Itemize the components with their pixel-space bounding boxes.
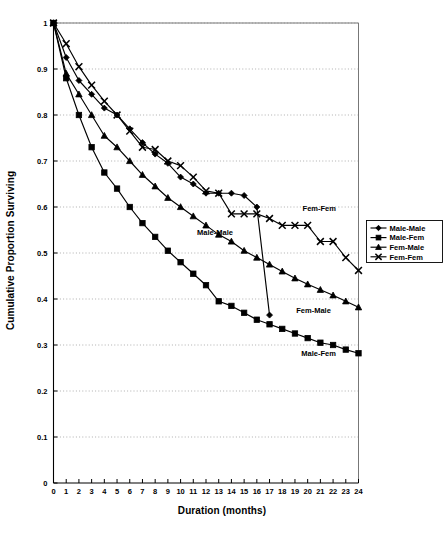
data-point-marker bbox=[63, 55, 69, 61]
data-point-marker bbox=[228, 238, 234, 244]
data-point-marker bbox=[102, 170, 107, 175]
x-tick-label: 7 bbox=[140, 487, 144, 496]
x-axis-ticks: 0123456789101112131415161718192021222324 bbox=[51, 479, 363, 496]
data-point-marker bbox=[254, 317, 259, 322]
x-tick-label: 10 bbox=[176, 487, 184, 496]
data-point-marker bbox=[178, 260, 183, 265]
data-point-marker bbox=[304, 281, 310, 287]
data-point-marker bbox=[266, 215, 273, 222]
y-tick-label: 0.1 bbox=[37, 433, 47, 442]
data-point-marker bbox=[305, 335, 310, 340]
data-point-marker bbox=[152, 234, 157, 239]
data-point-marker bbox=[76, 63, 83, 70]
data-point-marker bbox=[376, 235, 381, 240]
x-tick-label: 19 bbox=[291, 487, 299, 496]
x-tick-label: 12 bbox=[202, 487, 210, 496]
x-tick-label: 17 bbox=[265, 487, 273, 496]
legend-item-label: Male-Male bbox=[390, 224, 426, 233]
data-point-marker bbox=[355, 304, 361, 310]
data-point-marker bbox=[88, 82, 95, 89]
data-point-marker bbox=[190, 174, 197, 181]
y-tick-label: 0.9 bbox=[37, 65, 47, 74]
y-tick-label: 0.6 bbox=[37, 203, 47, 212]
survival-chart-plot: 0123456789101112131415161718192021222324… bbox=[0, 0, 444, 538]
legend-item-label: Fem-Fem bbox=[390, 253, 424, 262]
data-point-marker bbox=[342, 254, 349, 261]
data-point-marker bbox=[228, 190, 234, 196]
data-point-marker bbox=[101, 132, 107, 138]
y-tick-label: 0.8 bbox=[37, 111, 47, 120]
y-tick-label: 0.2 bbox=[37, 387, 47, 396]
series-male-male bbox=[51, 20, 273, 318]
legend-item-label: Fem-Male bbox=[390, 243, 425, 252]
chart-container: 0123456789101112131415161718192021222324… bbox=[0, 0, 444, 538]
data-point-marker bbox=[127, 204, 132, 209]
data-point-marker bbox=[279, 268, 285, 274]
x-tick-label: 22 bbox=[329, 487, 337, 496]
y-axis-ticks: 00.10.20.30.40.50.60.70.80.91 bbox=[37, 19, 57, 488]
x-tick-label: 8 bbox=[153, 487, 157, 496]
data-point-marker bbox=[267, 322, 272, 327]
data-point-marker bbox=[76, 112, 81, 117]
data-point-marker bbox=[356, 351, 361, 356]
x-tick-label: 13 bbox=[215, 487, 223, 496]
series-line bbox=[54, 23, 359, 307]
data-point-marker bbox=[165, 248, 170, 253]
annotation-fem-fem: Fem-Fem bbox=[303, 204, 337, 213]
x-tick-label: 0 bbox=[51, 487, 55, 496]
y-axis-title-wrap: Cumulative Proportion Surviving bbox=[0, 0, 24, 500]
x-tick-label: 20 bbox=[303, 487, 311, 496]
x-tick-label: 14 bbox=[227, 487, 236, 496]
x-tick-label: 11 bbox=[189, 487, 197, 496]
data-point-marker bbox=[241, 247, 247, 253]
data-point-marker bbox=[203, 283, 208, 288]
data-point-marker bbox=[101, 98, 108, 105]
data-point-marker bbox=[266, 261, 272, 267]
x-tick-label: 18 bbox=[278, 487, 286, 496]
x-tick-label: 24 bbox=[354, 487, 363, 496]
data-point-marker bbox=[292, 275, 298, 281]
x-tick-label: 21 bbox=[316, 487, 324, 496]
y-tick-label: 0.5 bbox=[37, 249, 47, 258]
x-tick-label: 5 bbox=[115, 487, 119, 496]
data-point-marker bbox=[63, 40, 70, 47]
data-point-marker bbox=[63, 70, 69, 76]
data-point-marker bbox=[177, 162, 184, 169]
data-point-marker bbox=[330, 342, 335, 347]
x-axis-title: Duration (months) bbox=[0, 505, 444, 516]
y-tick-label: 0.3 bbox=[37, 341, 47, 350]
x-tick-label: 3 bbox=[90, 487, 94, 496]
y-tick-label: 0.4 bbox=[37, 295, 48, 304]
data-point-marker bbox=[280, 326, 285, 331]
data-point-marker bbox=[254, 254, 260, 260]
annotation-male-fem: Male-Fem bbox=[301, 349, 336, 358]
series-line bbox=[54, 23, 270, 315]
data-point-marker bbox=[114, 186, 119, 191]
data-point-marker bbox=[76, 91, 82, 97]
y-axis-title: Cumulative Proportion Surviving bbox=[6, 170, 17, 329]
annotation-fem-male: Fem-Male bbox=[296, 306, 331, 315]
x-tick-label: 23 bbox=[342, 487, 350, 496]
x-tick-label: 9 bbox=[166, 487, 170, 496]
annotation-male-male: Male-Male bbox=[197, 228, 233, 237]
data-point-marker bbox=[343, 347, 348, 352]
y-tick-label: 0 bbox=[43, 479, 47, 488]
data-point-marker bbox=[267, 312, 273, 318]
y-tick-label: 1 bbox=[43, 19, 47, 28]
data-point-marker bbox=[190, 213, 196, 219]
data-point-marker bbox=[292, 331, 297, 336]
x-tick-label: 15 bbox=[240, 487, 248, 496]
data-point-marker bbox=[241, 310, 246, 315]
data-point-marker bbox=[89, 145, 94, 150]
legend: Male-MaleMale-FemFem-MaleFem-Fem bbox=[367, 221, 443, 263]
x-tick-label: 16 bbox=[253, 487, 261, 496]
data-point-marker bbox=[191, 271, 196, 276]
x-tick-label: 2 bbox=[77, 487, 81, 496]
data-point-marker bbox=[229, 303, 234, 308]
x-tick-label: 1 bbox=[64, 487, 68, 496]
x-tick-label: 4 bbox=[102, 487, 107, 496]
y-tick-label: 0.7 bbox=[37, 157, 47, 166]
data-point-marker bbox=[216, 299, 221, 304]
x-tick-label: 6 bbox=[128, 487, 132, 496]
inline-annotations: Male-MaleFem-FemFem-MaleMale-Fem bbox=[197, 204, 336, 358]
